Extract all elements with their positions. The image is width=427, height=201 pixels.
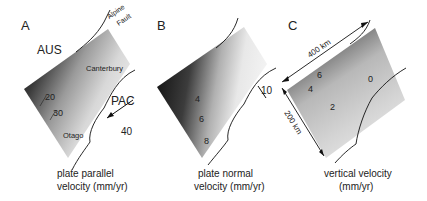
panel-caption: (mm/yr) [339, 181, 373, 192]
arrow-label: 10 [261, 85, 272, 96]
panel-caption: velocity (mm/yr) [57, 181, 128, 192]
panel-caption: plate parallel [57, 168, 114, 179]
panel-caption: plate normal [198, 168, 253, 179]
region-label-otago: Otago [63, 131, 83, 140]
contour-label: 2 [330, 102, 335, 112]
arrow-label: 40 [121, 126, 132, 137]
contour-label: 0 [368, 74, 373, 84]
contour-label: 6 [317, 70, 322, 80]
panel-c: C 400 km 200 km 6 4 2 0 vertical velocit… [280, 0, 427, 201]
arrow-head-icon [107, 112, 114, 118]
contour-label: 8 [204, 136, 209, 146]
panel-caption: velocity (mm/yr) [194, 181, 265, 192]
panel-caption: vertical velocity [324, 168, 392, 179]
panel-letter: B [157, 18, 166, 33]
contour-label: 4 [195, 94, 200, 104]
arrow-head-icon [282, 88, 287, 95]
velocity-field [287, 28, 405, 158]
panel-letter: C [288, 18, 297, 33]
contour-label: 20 [45, 92, 55, 102]
plate-label-aus: AUS [37, 43, 62, 57]
plate-label-pac: PAC [111, 94, 135, 108]
panel-b: B 4 6 8 10 plate normal velocity (mm/yr) [140, 0, 285, 201]
region-label-canterbury: Canterbury [86, 64, 123, 73]
arrow-head-icon [282, 76, 289, 82]
contour-label: 30 [53, 108, 63, 118]
contour-label: 4 [308, 84, 313, 94]
panel-letter: A [21, 18, 30, 33]
contour-label: 6 [199, 114, 204, 124]
panel-a: A AUS PAC Alpine Fault Canterbury Otago … [0, 0, 145, 201]
